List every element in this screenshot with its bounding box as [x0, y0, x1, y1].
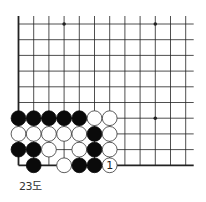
- black-stone: [26, 158, 41, 173]
- go-board-diagram: 1: [0, 0, 206, 202]
- white-stone: 1: [102, 158, 117, 173]
- black-stone: [11, 111, 26, 126]
- star-point: [154, 22, 158, 26]
- black-stone: [72, 158, 87, 173]
- diagram-caption: 23도: [19, 177, 42, 193]
- white-stone: [102, 111, 117, 126]
- star-point: [154, 116, 158, 120]
- white-stone: [57, 126, 72, 141]
- black-stone: [87, 158, 102, 173]
- black-stone: [87, 126, 102, 141]
- white-stone: [11, 126, 26, 141]
- black-stone: [26, 111, 41, 126]
- white-stone: [26, 126, 41, 141]
- white-stone: [87, 111, 102, 126]
- white-stone: [72, 142, 87, 157]
- white-stone: [102, 142, 117, 157]
- black-stone: [72, 111, 87, 126]
- black-stone: [87, 142, 102, 157]
- white-stone: [42, 126, 57, 141]
- black-stone: [57, 111, 72, 126]
- black-stone: [11, 142, 26, 157]
- white-stone: [57, 158, 72, 173]
- white-stone: [72, 126, 87, 141]
- black-stone: [42, 111, 57, 126]
- move-number-label: 1: [106, 159, 113, 172]
- white-stone: [102, 126, 117, 141]
- white-stone: [42, 142, 57, 157]
- black-stone: [26, 142, 41, 157]
- star-point: [62, 22, 66, 26]
